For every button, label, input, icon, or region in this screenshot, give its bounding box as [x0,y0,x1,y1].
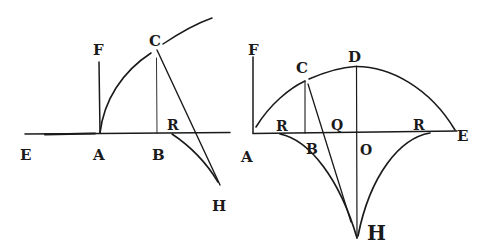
label-left-e: E [20,146,31,164]
label-left-f: F [93,41,104,59]
diagram-canvas: E A B F C R H F [0,0,486,251]
left-figure: E A B F C R H [20,18,230,215]
label-right-a: A [240,148,253,166]
label-left-r: R [167,117,179,133]
label-right-f: F [248,41,259,59]
label-right-r2: R [413,117,425,133]
label-right-q: Q [331,117,343,133]
right-curve-left-cusp [280,134,357,238]
left-baseline-thick [45,134,95,135]
left-line-cb [157,58,158,133]
label-right-r1: R [276,118,288,134]
label-left-b: B [152,146,165,164]
label-right-d: D [348,48,361,66]
left-curve-ac [100,53,151,133]
left-curve-continuation [163,18,212,44]
geometric-diagram: E A B F C R H F [0,0,486,251]
label-right-h: H [367,221,386,245]
label-right-e: E [457,127,468,145]
label-right-o: O [360,142,372,158]
label-left-a: A [92,146,105,164]
left-line-af [99,62,100,133]
label-right-c: C [296,59,308,77]
label-right-b: B [306,141,318,157]
right-line-doh [357,66,358,238]
left-curve-rh [172,134,218,182]
label-left-c: C [149,32,161,50]
right-figure: F C D A R B Q O R E H [240,41,468,245]
label-left-h: H [212,197,226,215]
